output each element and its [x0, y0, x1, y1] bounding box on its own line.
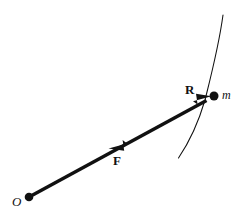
force-vector-label: F [113, 154, 121, 167]
origin-dot [25, 193, 34, 202]
physics-figure: O R F m [0, 0, 245, 218]
origin-label: O [12, 195, 21, 208]
position-vector-label: R [185, 83, 194, 96]
mass-dot [210, 92, 219, 101]
mass-label: m [222, 89, 231, 101]
figure-canvas [0, 0, 245, 218]
